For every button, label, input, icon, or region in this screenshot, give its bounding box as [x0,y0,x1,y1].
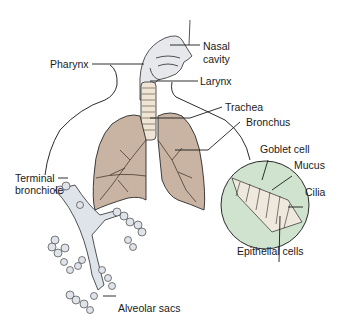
label-pharynx: Pharynx [50,58,89,70]
label-terminal-bronchiole: Terminal [15,172,55,184]
epithelium-inset [221,161,309,249]
respiratory-diagram: Nasal cavity Pharynx Larynx Trachea Bron… [0,0,339,324]
label-trachea: Trachea [225,101,263,113]
label-nasal-cavity: Nasal [203,40,230,52]
label-mucus: Mucus [294,159,325,171]
right-lung [93,115,146,210]
label-larynx: Larynx [200,75,232,87]
diagram-canvas [0,0,339,324]
label-bronchus: Bronchus [246,116,290,128]
label-goblet-cell: Goblet cell [260,143,310,155]
label-nasal-cavity-2: cavity [203,53,230,65]
label-alveolar-sacs: Alveolar sacs [118,302,180,314]
label-terminal-bronchiole-2: bronchiole [15,184,63,196]
left-lung [158,113,205,210]
label-epithelial-cells: Epithelial cells [237,245,304,257]
label-cilia: Cilia [305,186,325,198]
